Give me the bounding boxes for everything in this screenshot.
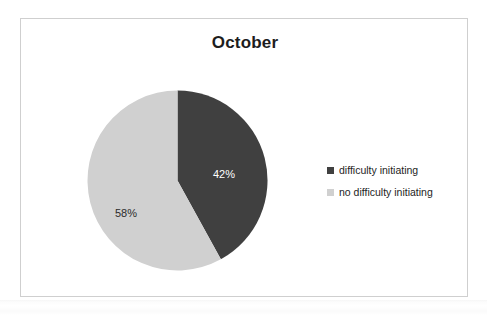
screenshot-canvas: October 42% 58% difficulty initiating no… xyxy=(0,0,487,315)
chart-legend: difficulty initiating no difficulty init… xyxy=(327,159,467,203)
legend-label-difficulty-initiating: difficulty initiating xyxy=(339,165,418,176)
legend-item-difficulty-initiating[interactable]: difficulty initiating xyxy=(327,159,467,181)
chart-frame: October 42% 58% difficulty initiating no… xyxy=(20,18,468,297)
legend-item-no-difficulty-initiating[interactable]: no difficulty initiating xyxy=(327,181,467,203)
legend-label-no-difficulty-initiating: no difficulty initiating xyxy=(339,187,433,198)
scan-artifact-band xyxy=(0,300,487,315)
pie-chart-plot-area: 42% 58% xyxy=(87,90,268,271)
legend-swatch-dark-icon xyxy=(327,167,334,174)
pie-svg xyxy=(87,90,268,271)
chart-title: October xyxy=(21,33,469,53)
pie-label-difficulty-initiating: 42% xyxy=(213,168,235,180)
legend-swatch-light-icon xyxy=(327,189,334,196)
pie-label-no-difficulty-initiating: 58% xyxy=(115,207,137,219)
